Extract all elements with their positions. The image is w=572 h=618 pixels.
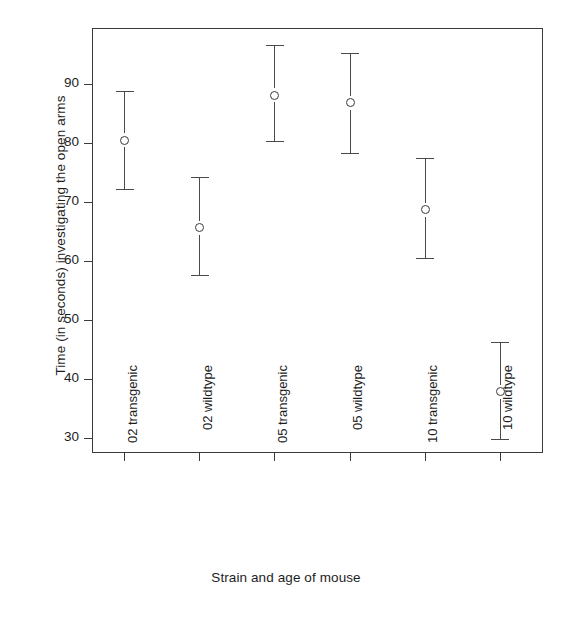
y-tick-mark [84,379,92,380]
error-bar-upper-line [500,342,501,385]
y-tick-label: 90 [64,75,79,90]
x-tick-label: 02 wildtype [200,365,215,565]
error-bar-upper-line [199,177,200,220]
mean-point-marker [496,387,505,396]
error-bar-lower-line [350,110,351,153]
error-bar-lower-line [425,217,426,258]
y-tick-mark [84,320,92,321]
error-bar-upper-cap [416,158,434,159]
y-tick-label: 80 [64,134,79,149]
x-tick-label: 05 transgenic [275,365,290,565]
y-tick-mark [84,143,92,144]
y-tick-label: 30 [64,429,79,444]
error-bar-upper-cap [491,342,509,343]
error-bar-upper-cap [116,91,134,92]
error-bar-upper-line [124,91,125,133]
y-tick-label: 70 [64,193,79,208]
error-bar-lower-line [500,399,501,440]
error-bar-lower-line [274,102,275,141]
error-bar-upper-line [425,158,426,202]
chart-figure: Time (in seconds) investigating the open… [0,0,572,618]
error-bar-lower-cap [266,141,284,142]
error-bar-lower-cap [491,439,509,440]
error-bar-lower-cap [191,275,209,276]
mean-point-marker [120,136,129,145]
error-bar-lower-cap [416,258,434,259]
error-bar-upper-line [274,45,275,88]
error-bar-lower-cap [341,153,359,154]
error-bar-lower-line [124,147,125,188]
plot-area [92,28,543,453]
error-bar-upper-cap [341,53,359,54]
y-tick-mark [84,202,92,203]
error-bar-upper-cap [266,45,284,46]
error-bar-lower-line [199,235,200,275]
x-tick-label: 10 transgenic [425,365,440,565]
y-tick-mark [84,261,92,262]
y-tick-label: 40 [64,370,79,385]
error-bar-upper-cap [191,177,209,178]
mean-point-marker [421,205,430,214]
error-bar-lower-cap [116,189,134,190]
y-tick-label: 50 [64,311,79,326]
x-axis-title: Strain and age of mouse [0,570,572,585]
x-tick-label: 05 wildtype [350,365,365,565]
y-tick-label: 60 [64,252,79,267]
y-tick-mark [84,438,92,439]
error-bar-upper-line [350,53,351,96]
y-tick-mark [84,84,92,85]
x-tick-label: 02 transgenic [125,365,140,565]
